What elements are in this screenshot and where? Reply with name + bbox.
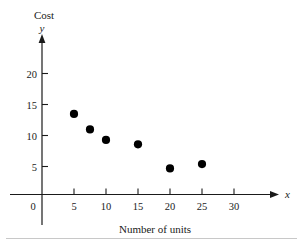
x-tick-label-5: 5	[71, 201, 76, 212]
y-tick-label-20: 20	[27, 69, 38, 80]
data-points-layer	[70, 110, 206, 173]
x-tick-label-25: 25	[197, 201, 208, 212]
x-tick-label-20: 20	[165, 201, 176, 212]
y-axis-title: Cost	[34, 9, 54, 21]
x-tick-label-0: 0	[30, 201, 35, 212]
y-tick-label-5: 5	[32, 162, 37, 173]
x-tick-label-10: 10	[101, 201, 112, 212]
data-point	[134, 140, 142, 148]
y-axis-arrowhead	[39, 34, 46, 43]
data-point	[102, 136, 110, 144]
data-point	[70, 110, 78, 118]
y-tick-label-10: 10	[27, 131, 38, 142]
y-axis-ticks	[42, 74, 48, 167]
x-tick-label-15: 15	[133, 201, 144, 212]
x-axis-arrowhead	[270, 191, 279, 198]
x-axis-title: Number of units	[119, 223, 191, 235]
chart-canvas: 20 15 10 5 0 5 10 15 20 25 30 y x Cost N…	[0, 0, 303, 243]
x-axis-ticks	[74, 189, 234, 195]
x-axis-symbol: x	[284, 188, 290, 200]
scatter-plot-figure: 20 15 10 5 0 5 10 15 20 25 30 y x Cost N…	[0, 0, 303, 243]
y-tick-label-15: 15	[27, 100, 38, 111]
data-point	[198, 160, 206, 168]
data-point	[86, 125, 94, 133]
y-axis-symbol: y	[39, 22, 45, 34]
data-point	[166, 164, 174, 172]
x-tick-label-30: 30	[229, 201, 240, 212]
